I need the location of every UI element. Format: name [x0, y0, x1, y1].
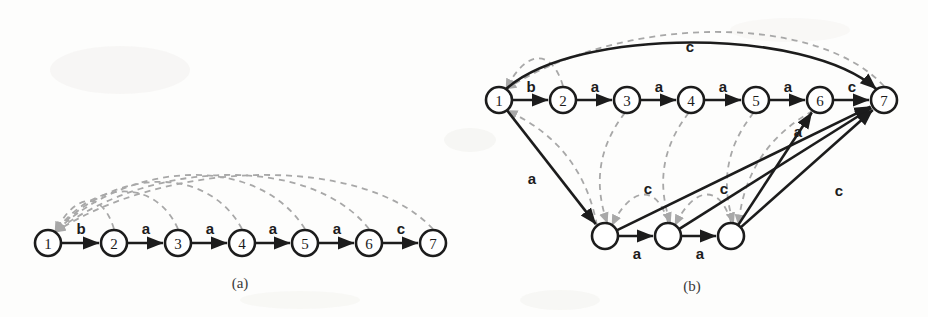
state-label: 7 — [429, 236, 437, 252]
state-circle[interactable] — [718, 223, 744, 249]
state-label: 1 — [495, 93, 503, 109]
transition-label: b — [76, 220, 85, 237]
state-node-3[interactable]: 3 — [614, 87, 640, 113]
goto-transition — [617, 107, 871, 231]
transition-label: a — [206, 220, 215, 237]
state-label: 3 — [623, 93, 631, 109]
transition-label: a — [333, 220, 342, 237]
state-node-1[interactable]: 1 — [35, 230, 61, 256]
state-circle[interactable] — [655, 223, 681, 249]
panel-caption-a: (a) — [232, 275, 249, 292]
state-node-3[interactable]: 3 — [165, 230, 191, 256]
transition-label: a — [142, 220, 151, 237]
state-node-5[interactable]: 5 — [743, 87, 769, 113]
state-label: 4 — [238, 236, 246, 252]
state-label: 5 — [301, 236, 309, 252]
transition-label: a — [696, 245, 705, 262]
state-label: 1 — [44, 236, 52, 252]
transition-label: c — [720, 180, 728, 197]
state-node-6[interactable]: 6 — [356, 230, 382, 256]
transition-label: b — [526, 78, 535, 95]
failure-link — [600, 113, 625, 223]
goto-transition — [741, 110, 873, 227]
transition-label: c — [848, 78, 856, 95]
state-node-1[interactable]: 1 — [486, 87, 512, 113]
state-label: 6 — [365, 236, 373, 252]
state-node-4[interactable]: 4 — [678, 87, 704, 113]
state-node-2[interactable]: 2 — [101, 230, 127, 256]
transition-label: c — [835, 182, 843, 199]
transition-label: a — [633, 245, 642, 262]
panel-caption-b: (b) — [683, 278, 701, 295]
state-label: 4 — [687, 93, 695, 109]
transition-label: a — [591, 78, 600, 95]
state-circle[interactable] — [592, 223, 618, 249]
state-node-7[interactable]: 7 — [420, 230, 446, 256]
goto-transition — [507, 110, 596, 224]
state-label: 3 — [174, 236, 182, 252]
state-node-2[interactable]: 2 — [550, 87, 576, 113]
state-node-unlabeled[interactable] — [592, 223, 618, 249]
state-label: 2 — [559, 93, 567, 109]
failure-link — [55, 191, 178, 232]
state-node-unlabeled[interactable] — [655, 223, 681, 249]
states-layer: 12345671234567 — [35, 87, 897, 256]
state-node-unlabeled[interactable] — [718, 223, 744, 249]
state-node-6[interactable]: 6 — [807, 87, 833, 113]
transition-label: c — [686, 38, 694, 55]
transition-label: a — [528, 170, 537, 187]
paper-smudges — [50, 18, 850, 310]
state-node-4[interactable]: 4 — [229, 230, 255, 256]
transition-label: a — [719, 78, 728, 95]
state-label: 5 — [752, 93, 760, 109]
transition-label: a — [269, 220, 278, 237]
state-label: 2 — [110, 236, 118, 252]
transition-label: c — [644, 180, 652, 197]
state-label: 6 — [816, 93, 824, 109]
transition-label: a — [794, 123, 803, 140]
state-label: 7 — [880, 93, 888, 109]
transition-label: c — [397, 220, 405, 237]
state-node-7[interactable]: 7 — [871, 87, 897, 113]
transition-label: a — [784, 78, 793, 95]
state-node-5[interactable]: 5 — [292, 230, 318, 256]
transition-label: a — [655, 78, 664, 95]
automaton-figure: 12345671234567 baaaacbaaaaccaaaccac (a)(… — [0, 0, 928, 317]
figure-canvas: 12345671234567 baaaacbaaaaccaaaccac (a)(… — [0, 0, 928, 317]
